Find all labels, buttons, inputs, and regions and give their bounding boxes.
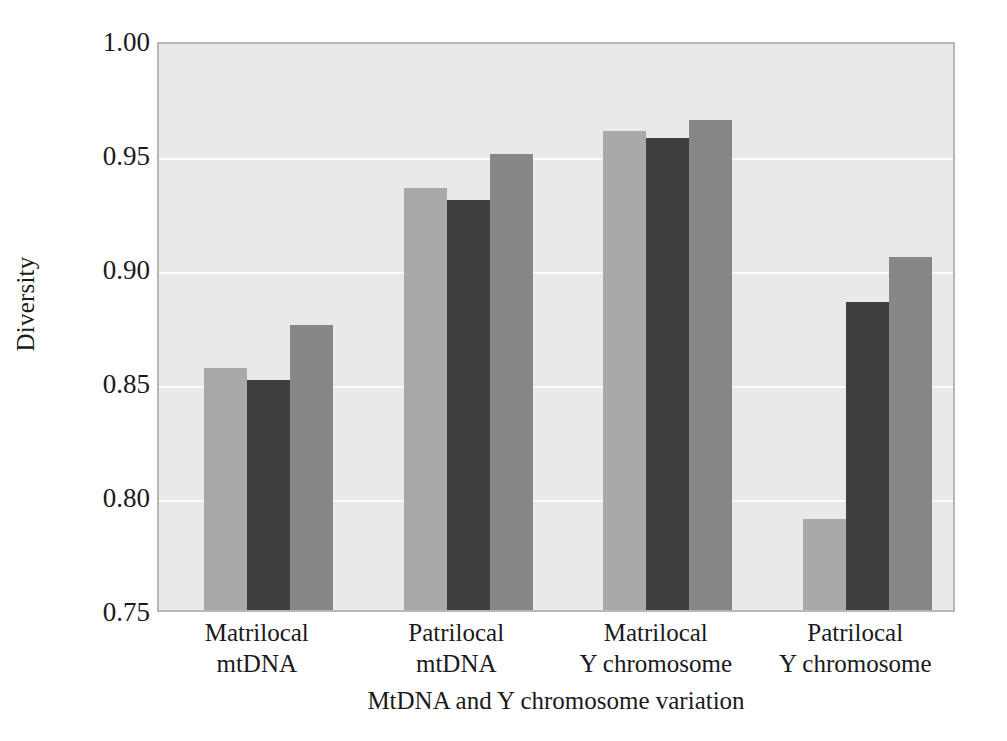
category-label: PatrilocalY chromosome: [756, 618, 956, 679]
bar: [603, 131, 646, 610]
bar: [247, 380, 290, 610]
bars-layer: [159, 44, 953, 610]
category-label: MatrilocalY chromosome: [556, 618, 756, 679]
bar: [889, 257, 932, 610]
bar: [447, 200, 490, 610]
bar: [404, 188, 447, 610]
category-label-line1: Matrilocal: [157, 618, 357, 649]
category-label: PatrilocalmtDNA: [357, 618, 557, 679]
bar-chart-figure: Diversity 1.000.950.900.850.800.75 Matri…: [0, 0, 1007, 741]
bar: [204, 368, 247, 610]
bar: [846, 302, 889, 610]
bar: [646, 138, 689, 610]
y-tick-label: 0.75: [62, 599, 150, 626]
y-tick-label: 0.90: [62, 257, 150, 284]
bar: [490, 154, 533, 610]
bar-group: [603, 44, 732, 610]
x-axis-category-labels: MatrilocalmtDNAPatrilocalmtDNAMatrilocal…: [157, 618, 955, 684]
bar-group: [204, 44, 333, 610]
x-axis-title: MtDNA and Y chromosome variation: [157, 687, 955, 715]
category-label-line2: mtDNA: [357, 649, 557, 680]
bar: [290, 325, 333, 610]
bar: [803, 519, 846, 610]
category-label-line1: Patrilocal: [756, 618, 956, 649]
category-label-line2: mtDNA: [157, 649, 357, 680]
bar-group: [803, 44, 932, 610]
plot-area: [157, 42, 955, 612]
category-label-line2: Y chromosome: [556, 649, 756, 680]
y-tick-label: 0.85: [62, 371, 150, 398]
category-label-line2: Y chromosome: [756, 649, 956, 680]
category-label-line1: Patrilocal: [357, 618, 557, 649]
category-label-line1: Matrilocal: [556, 618, 756, 649]
y-tick-label: 0.80: [62, 485, 150, 512]
y-tick-label: 1.00: [62, 29, 150, 56]
bar: [689, 120, 732, 610]
category-label: MatrilocalmtDNA: [157, 618, 357, 679]
y-tick-label: 0.95: [62, 143, 150, 170]
y-axis-title: Diversity: [12, 224, 40, 384]
y-axis-tick-labels: 1.000.950.900.850.800.75: [62, 42, 150, 612]
bar-group: [404, 44, 533, 610]
